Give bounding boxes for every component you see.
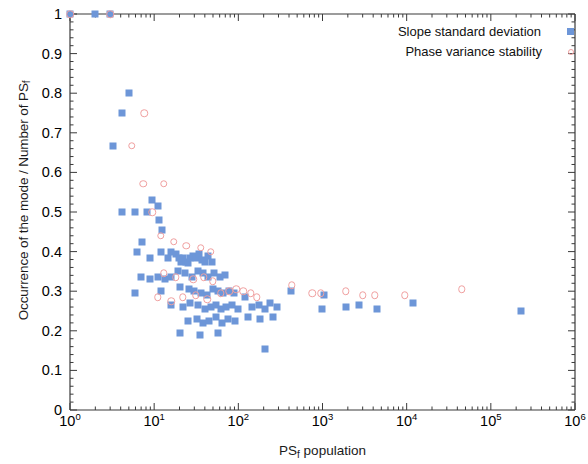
data-point-phase-variance xyxy=(204,295,212,303)
data-point-phase-variance xyxy=(309,289,317,297)
data-point-slope-std-dev xyxy=(92,11,99,18)
data-point-slope-std-dev xyxy=(132,209,139,216)
data-point-slope-std-dev xyxy=(373,306,380,313)
data-point-phase-variance xyxy=(170,238,178,246)
data-point-slope-std-dev xyxy=(176,329,183,336)
legend-marker-square-icon xyxy=(567,28,574,35)
data-point-slope-std-dev xyxy=(274,304,281,311)
data-point-slope-std-dev xyxy=(518,308,525,315)
data-point-slope-std-dev xyxy=(181,270,188,277)
data-point-phase-variance xyxy=(66,10,74,18)
data-point-phase-variance xyxy=(154,293,162,301)
data-point-phase-variance xyxy=(182,242,190,250)
data-point-phase-variance xyxy=(371,291,379,299)
data-point-slope-std-dev xyxy=(232,317,239,324)
data-point-slope-std-dev xyxy=(187,300,194,307)
data-point-phase-variance xyxy=(157,232,165,240)
data-point-slope-std-dev xyxy=(147,276,154,283)
data-point-slope-std-dev xyxy=(262,345,269,352)
data-point-slope-std-dev xyxy=(125,90,132,97)
data-point-phase-variance xyxy=(359,291,367,299)
data-point-slope-std-dev xyxy=(270,313,277,320)
legend-label: Slope standard deviation xyxy=(398,24,541,39)
data-point-slope-std-dev xyxy=(134,248,141,255)
legend-marker-circle-icon xyxy=(568,49,574,55)
data-point-phase-variance xyxy=(172,274,180,282)
data-point-phase-variance xyxy=(149,208,157,216)
data-point-slope-std-dev xyxy=(342,304,349,311)
data-point-slope-std-dev xyxy=(176,284,183,291)
data-point-phase-variance xyxy=(140,109,148,117)
data-point-slope-std-dev xyxy=(222,272,229,279)
data-point-phase-variance xyxy=(200,274,208,282)
data-point-slope-std-dev xyxy=(147,254,154,261)
data-point-slope-std-dev xyxy=(118,209,125,216)
legend-label: Phase variance stability xyxy=(405,44,542,59)
data-point-phase-variance xyxy=(160,180,168,188)
data-point-phase-variance xyxy=(168,297,176,305)
data-point-slope-std-dev xyxy=(208,258,215,265)
data-point-phase-variance xyxy=(207,248,215,256)
data-point-phase-variance xyxy=(458,285,466,293)
data-point-phase-variance xyxy=(106,10,114,18)
data-point-phase-variance xyxy=(401,291,409,299)
data-point-slope-std-dev xyxy=(179,304,186,311)
data-point-slope-std-dev xyxy=(225,315,232,322)
data-point-phase-variance xyxy=(128,142,136,150)
data-point-phase-variance xyxy=(160,270,168,278)
data-point-slope-std-dev xyxy=(256,315,263,322)
data-point-slope-std-dev xyxy=(138,274,145,281)
data-point-slope-std-dev xyxy=(410,300,417,307)
data-point-slope-std-dev xyxy=(244,313,251,320)
data-point-slope-std-dev xyxy=(235,306,242,313)
data-point-phase-variance xyxy=(192,291,200,299)
data-point-slope-std-dev xyxy=(132,290,139,297)
data-point-slope-std-dev xyxy=(109,142,116,149)
data-point-phase-variance xyxy=(189,276,197,284)
legend-entry[interactable]: Phase variance stability xyxy=(405,44,574,59)
data-point-phase-variance xyxy=(179,293,187,301)
data-point-slope-std-dev xyxy=(194,302,201,309)
data-point-slope-std-dev xyxy=(156,216,163,223)
data-point-slope-std-dev xyxy=(215,329,222,336)
data-point-slope-std-dev xyxy=(139,238,146,245)
data-point-slope-std-dev xyxy=(318,306,325,313)
data-point-slope-std-dev xyxy=(184,317,191,324)
data-point-phase-variance xyxy=(139,180,147,188)
data-point-phase-variance xyxy=(342,287,350,295)
data-point-phase-variance xyxy=(197,244,205,252)
data-point-phase-variance xyxy=(317,289,325,297)
data-point-phase-variance xyxy=(253,293,261,301)
data-point-phase-variance xyxy=(217,289,225,297)
chart-axes xyxy=(0,0,588,464)
data-point-slope-std-dev xyxy=(355,302,362,309)
data-point-phase-variance xyxy=(209,278,217,286)
data-point-slope-std-dev xyxy=(118,110,125,117)
data-point-slope-std-dev xyxy=(196,331,203,338)
scatter-chart-figure: Occurrence of the mode / Number of PSf P… xyxy=(0,0,588,464)
data-point-phase-variance xyxy=(288,282,296,290)
legend-entry[interactable]: Slope standard deviation xyxy=(398,24,574,39)
